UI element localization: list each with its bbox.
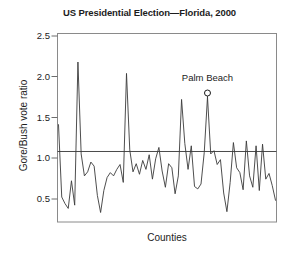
y-axis-ticks xyxy=(52,36,58,199)
chart-figure: US Presidential Election—Florida, 2000 G… xyxy=(0,0,299,266)
plot-area xyxy=(0,0,299,266)
annotation-palm-beach: Palm Beach xyxy=(147,72,267,83)
plot-frame xyxy=(58,34,277,223)
